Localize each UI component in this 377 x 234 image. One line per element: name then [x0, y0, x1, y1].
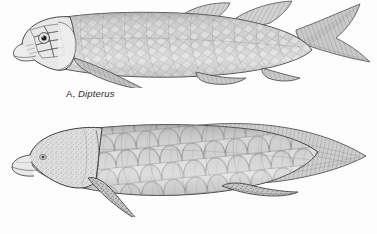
- dipterus-head: [13, 17, 76, 71]
- epiceratodus-pelvic-fin: [222, 183, 298, 196]
- dipterus-illustration: [0, 0, 377, 88]
- figure-panel-dipterus: A, Dipterus: [0, 0, 377, 110]
- epiceratodus-eye: [40, 154, 47, 159]
- caption-dipterus: A, Dipterus: [66, 88, 115, 99]
- caption-letter-a: A,: [66, 88, 75, 99]
- figure-panel-epiceratodus: B, Epiceratodus: [0, 112, 377, 234]
- caption-taxon-a: Dipterus: [78, 88, 115, 99]
- epiceratodus-illustration: [0, 112, 377, 217]
- dipterus-eye: [39, 33, 50, 44]
- dipterus-anal-fin: [262, 68, 300, 81]
- figure-root: A, Dipterus: [0, 0, 377, 234]
